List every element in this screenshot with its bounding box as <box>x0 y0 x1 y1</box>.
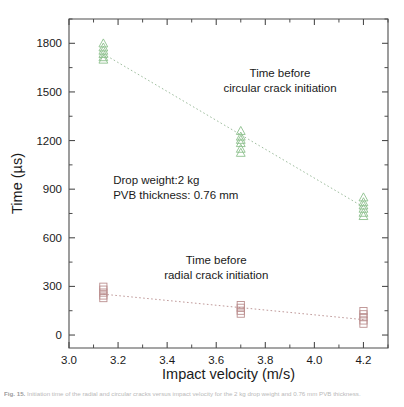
y-tick-label: 300 <box>43 280 62 292</box>
data-point-circular <box>359 212 368 220</box>
conditions-annotation-line: PVB thickness: 0.76 mm <box>113 189 238 201</box>
circular-crack-annotation-line: Time before <box>250 67 311 79</box>
x-tick-label: 3.4 <box>159 354 176 366</box>
radial-crack-annotation-line: radial crack initiation <box>164 269 268 281</box>
y-tick-label: 900 <box>43 183 62 195</box>
x-tick-label: 4.0 <box>306 354 322 366</box>
figure-caption: Fig. 15. Initiation time of the radial a… <box>4 390 400 398</box>
radial-trend-line <box>103 294 363 319</box>
chart-plot: 03006009001200150018003.03.23.43.63.84.0… <box>0 0 404 407</box>
radial-crack-annotation-line: Time before <box>186 254 247 266</box>
figure-container: 03006009001200150018003.03.23.43.63.84.0… <box>0 0 404 407</box>
y-tick-label: 600 <box>43 232 62 244</box>
x-tick-label: 4.2 <box>355 354 371 366</box>
conditions-annotation-line: Drop weight:2 kg <box>113 174 199 186</box>
y-tick-label: 1500 <box>36 86 62 98</box>
x-tick-label: 3.6 <box>208 354 224 366</box>
caption-text: Initiation time of the radial and circul… <box>27 390 361 397</box>
caption-figure-number: Fig. 15. <box>4 390 25 397</box>
y-axis-title: Time (µs) <box>9 153 25 214</box>
data-point-radial <box>100 294 107 301</box>
x-tick-label: 3.8 <box>257 354 273 366</box>
circular-crack-annotation-line: circular crack initiation <box>223 82 336 94</box>
x-tick-label: 3.0 <box>61 354 77 366</box>
x-axis-title: Impact velocity (m/s) <box>162 366 295 382</box>
y-tick-label: 1200 <box>36 135 62 147</box>
x-tick-label: 3.2 <box>110 354 126 366</box>
y-tick-label: 0 <box>56 329 62 341</box>
y-tick-label: 1800 <box>36 37 62 49</box>
